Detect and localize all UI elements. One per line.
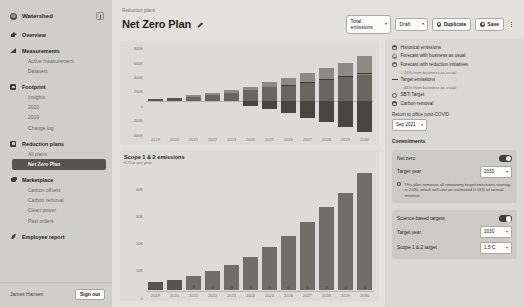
bar-column[interactable] [241,167,260,290]
y-tick-label: 400K [134,75,143,80]
bar-column[interactable] [184,167,203,290]
save-button[interactable]: Save [475,18,504,31]
bar-column[interactable] [336,45,355,135]
bar-column[interactable] [184,45,203,135]
save-label: Save [487,21,499,27]
breadcrumb[interactable]: Reduction plans [122,8,515,13]
y-tick-label: -400K [132,132,143,137]
sidebar-group-reduction-plans: Reduction plans All plans Net Zero Plan [0,138,112,169]
panel-collapse-icon[interactable] [96,12,104,20]
sidebar-group-marketplace: Marketplace Carbon offsets Carbon remova… [0,175,112,227]
sidebar-item-active-measurement[interactable]: Active measurement [6,56,106,66]
bar-column[interactable] [279,167,298,290]
legend-item: Forecast with business as usual [392,53,517,59]
metric-select[interactable]: Total emissions ▾ [346,15,391,34]
bar-segment [300,73,314,81]
y-tick-label: -200K [132,118,143,123]
net-zero-target-year-select[interactable]: 2030 ▾ [480,166,512,178]
net-zero-target-year-label: Target year [397,169,421,174]
x-tick-label: 2025 [260,293,279,298]
duplicate-button[interactable]: Duplicate [432,18,472,31]
x-tick-label: 2022 [203,293,222,298]
bar-segment-removal [300,101,314,117]
bar-column[interactable] [260,45,279,135]
sidebar-item-overview[interactable]: Overview [0,29,112,40]
zero-line [146,291,374,292]
sidebar-item-datasets[interactable]: Datasets [6,66,106,76]
return-to-office-select[interactable]: Sep 2021 ▾ [392,119,427,131]
bar-segment [357,75,371,102]
scope-chart-title: Scope 1 & 2 emissions [124,154,374,160]
bar-column[interactable] [146,167,165,290]
x-tick-label: 2030 [355,137,374,142]
sidebar-item-carbon-offsets[interactable]: Carbon offsets [6,186,106,196]
sidebar-item-change-log[interactable]: Change log [6,123,106,133]
sidebar-item-all-plans[interactable]: All plans [6,149,106,159]
sidebar-item-employee-report[interactable]: Employee report [0,231,112,242]
bar-column[interactable] [317,45,336,135]
kebab-menu-icon[interactable] [508,22,515,28]
bar-column[interactable] [355,45,374,135]
sbt-label: Science-based targets [397,216,445,221]
sidebar-item-2020[interactable]: 2020 [6,103,106,113]
bar-column[interactable] [317,167,336,290]
bar-column[interactable] [298,167,317,290]
x-tick-label: 2025 [260,137,279,142]
bar-segment [262,82,276,87]
sidebar-item-measurements[interactable]: Measurements [0,45,112,56]
net-zero-toggle[interactable] [499,155,512,162]
bar-segment [281,85,295,102]
legend-item: Forecast with reduction initiatives [392,62,517,68]
x-tick-label: 2024 [241,137,260,142]
target-line [281,85,296,86]
bar-segment [243,90,257,101]
bar-column[interactable] [260,167,279,290]
bar-segment [300,82,314,102]
status-select[interactable]: Draft ▾ [395,18,428,31]
x-tick-label: 2029 [336,293,355,298]
legend-swatch-icon [392,79,398,80]
sidebar-item-reduction-plans[interactable]: Reduction plans [0,138,112,149]
sidebar-item-clean-power[interactable]: Clean power [6,206,106,216]
bar-column[interactable] [203,45,222,135]
bar-column[interactable] [165,45,184,135]
sbt-scope-select[interactable]: 1.5ºC ▾ [480,242,512,254]
sidebar-item-2019[interactable]: 2019 [6,113,106,123]
sbt-target-year-row: Target year 2030 ▾ [397,226,512,238]
legend-item: Historical emissions [392,45,517,51]
x-tick-label: 2019 [146,137,165,142]
sidebar-item-insights[interactable]: Insights [6,92,106,102]
sign-out-button[interactable]: Sign out [75,289,105,300]
bar-column[interactable] [279,45,298,135]
bar-column[interactable] [298,45,317,135]
bar-column[interactable] [203,167,222,290]
sidebar-item-footprint[interactable]: Footprint [0,81,112,92]
sbt-toggle[interactable] [499,215,512,222]
pencil-icon[interactable] [196,20,204,28]
sidebar-item-net-zero-plan[interactable]: Net Zero Plan [12,159,106,169]
bar-column[interactable] [146,45,165,135]
bar-column[interactable] [222,167,241,290]
sidebar-item-marketplace[interactable]: Marketplace [0,175,112,186]
bar-column[interactable] [241,45,260,135]
app-window: Watershed Overview Measurements Active m… [0,0,524,307]
x-tick-label: 2024 [241,293,260,298]
legend-label: Forecast with business as usual [401,53,466,59]
bar-segment [281,78,295,84]
sbti-target-marker [268,286,272,290]
bar-column[interactable] [165,167,184,290]
bar-segment [186,97,200,102]
sidebar-footer: James Hansen Sign out [0,282,112,307]
bar-group [146,45,374,135]
sbti-target-marker [306,286,310,290]
x-axis-total: 2019202020212022202320242025202620272028… [146,137,374,142]
cart-icon [10,177,17,184]
sidebar-item-carbon-removal[interactable]: Carbon removal [6,196,106,206]
sbt-target-year-select[interactable]: 2030 ▾ [480,226,512,238]
bar-segment [319,207,334,290]
sidebar-item-past-orders[interactable]: Past orders [6,216,106,226]
bar-column[interactable] [355,167,374,290]
x-tick-label: 2021 [184,293,203,298]
bar-column[interactable] [222,45,241,135]
bar-column[interactable] [336,167,355,290]
